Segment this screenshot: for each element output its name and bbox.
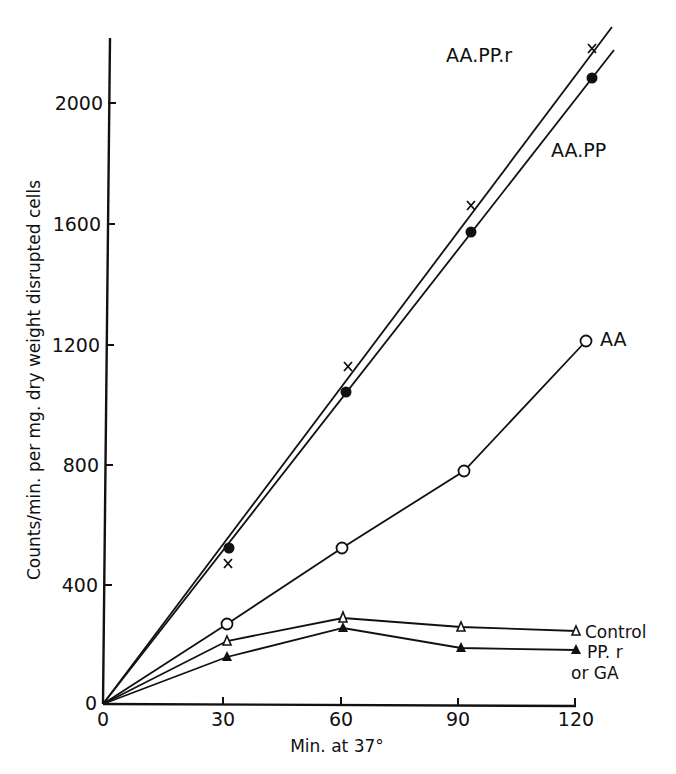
label-ga: or GA — [571, 663, 619, 683]
label-control: Control — [585, 622, 646, 642]
series-aapp — [103, 50, 614, 704]
y-tick-0: 0 — [85, 692, 97, 714]
label-aa: AA — [600, 328, 627, 350]
y-tick-labels: 2000 1600 1200 800 400 0 — [52, 92, 103, 714]
y-axis-title: Counts/min. per mg. dry weight disrupted… — [24, 180, 44, 580]
chart: 2000 1600 1200 800 400 0 0 30 60 90 120 … — [0, 0, 676, 774]
x-tick-120: 120 — [558, 708, 594, 730]
y-tick-1200: 1200 — [52, 334, 100, 356]
x-tick-0: 0 — [97, 708, 109, 730]
y-axis — [103, 38, 110, 704]
y-tick-400: 400 — [62, 574, 98, 596]
y-tick-1600: 1600 — [53, 213, 101, 235]
y-tick-800: 800 — [63, 454, 99, 476]
x-tick-60: 60 — [329, 708, 353, 730]
x-tick-30: 30 — [211, 708, 235, 730]
x-axis-title: Min. at 37° — [290, 736, 384, 756]
series-ppr-ga — [103, 622, 581, 704]
filled-circle-marker-icon — [224, 73, 598, 554]
x-tick-90: 90 — [446, 708, 470, 730]
label-ppr: PP. r — [587, 642, 623, 662]
label-aapp: AA.PP — [551, 139, 606, 161]
x-tick-labels: 0 30 60 90 120 — [97, 708, 594, 730]
x-axis — [103, 704, 576, 706]
label-aappr: AA.PP.r — [446, 44, 512, 66]
filled-triangle-marker-icon — [222, 622, 581, 661]
series-aappr — [103, 27, 612, 704]
y-tick-2000: 2000 — [55, 92, 103, 114]
